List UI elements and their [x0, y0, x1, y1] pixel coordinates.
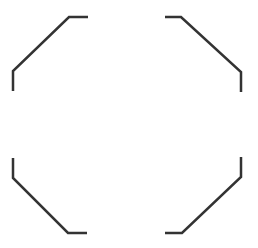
bottom-left-bracket [13, 158, 87, 233]
corner-bracket-frame [0, 0, 258, 248]
top-right-bracket [165, 17, 241, 92]
bracket-frame-icon [0, 0, 258, 248]
top-left-bracket [13, 17, 88, 91]
bottom-right-bracket [165, 157, 241, 233]
